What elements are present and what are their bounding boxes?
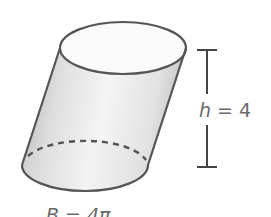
base-variable: B	[46, 204, 59, 217]
oblique-cylinder-diagram: h=4 B=4π	[0, 0, 271, 217]
height-label: h=4	[199, 99, 251, 121]
base-area-label: B=4π	[46, 204, 111, 217]
height-equals: =	[217, 99, 233, 121]
base-equals: =	[65, 204, 81, 217]
height-value: 4	[239, 99, 251, 121]
top-face	[60, 22, 186, 74]
height-variable: h	[199, 99, 211, 121]
base-value: 4π	[87, 204, 111, 217]
